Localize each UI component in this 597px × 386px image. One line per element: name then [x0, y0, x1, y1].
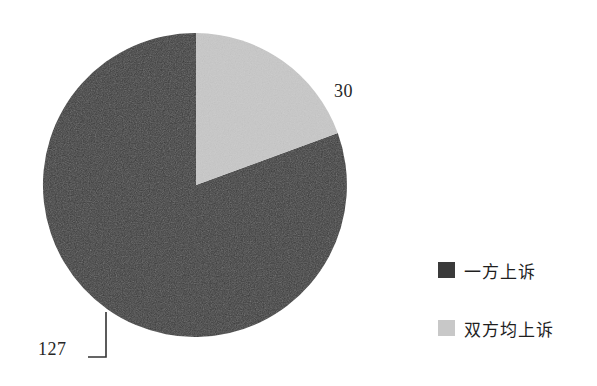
legend-label-both-parties-appeal: 双方均上诉	[464, 316, 554, 341]
pie-svg	[0, 0, 420, 386]
legend-item-both-parties-appeal[interactable]: 双方均上诉	[438, 306, 588, 350]
slice-value-label-one-party: 127	[38, 340, 67, 358]
legend-item-one-party-appeal[interactable]: 一方上诉	[438, 248, 588, 292]
legend-label-one-party-appeal: 一方上诉	[464, 258, 536, 283]
leader-line-127	[88, 312, 106, 357]
legend-swatch-dark-icon	[438, 262, 455, 278]
legend-swatch-light-icon	[438, 320, 455, 336]
slice-value-label-both-parties: 30	[334, 82, 353, 100]
pie-chart-figure: 30 127 一方上诉 双方均上诉	[0, 0, 597, 386]
chart-legend: 一方上诉 双方均上诉	[438, 248, 588, 350]
pie-plot-area	[0, 0, 420, 386]
